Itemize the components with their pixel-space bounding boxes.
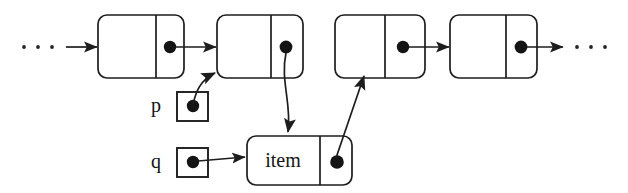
trailing-ellipsis — [575, 45, 607, 49]
node-1 — [98, 15, 184, 78]
node-1-pointer-dot — [164, 41, 176, 53]
var-q-label: q — [151, 150, 161, 173]
var-q-pointer-dot — [187, 156, 199, 168]
node-2-pointer-dot — [280, 41, 293, 54]
linked-list-diagram: p q item — [0, 0, 628, 193]
node-item: item — [247, 136, 352, 185]
node-4 — [450, 15, 537, 78]
node-item-label: item — [265, 149, 301, 171]
var-q: q — [151, 148, 208, 177]
node-3-pointer-dot — [397, 41, 409, 53]
var-p-label: p — [151, 94, 161, 117]
node-4-pointer-dot — [515, 41, 528, 54]
diagram-canvas: p q item — [0, 0, 628, 193]
leading-ellipsis — [22, 45, 54, 49]
node-2 — [217, 15, 303, 78]
var-p: p — [151, 92, 208, 121]
